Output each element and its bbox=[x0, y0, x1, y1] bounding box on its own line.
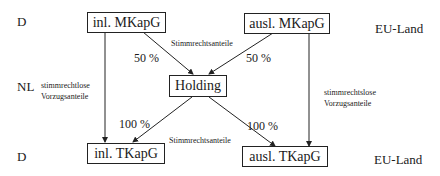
holding-structure-diagram: D EU-Land NL D EU-Land inl. MKapG ausl. … bbox=[0, 0, 440, 176]
node-label: Holding bbox=[175, 78, 221, 94]
node-inl-tkapg: inl. TKapG bbox=[87, 143, 165, 164]
node-label: inl. MKapG bbox=[93, 15, 161, 31]
node-inl-mkapg: inl. MKapG bbox=[87, 12, 166, 33]
country-label-top-right: EU-Land bbox=[375, 22, 423, 35]
country-label-bottom-left: D bbox=[17, 150, 26, 163]
annotation-line: Vorzugsanteile bbox=[41, 91, 90, 102]
node-ausl-mkapg: ausl. MKapG bbox=[244, 13, 330, 34]
annotation-nonvoting-left: stimmrechtlose Vorzugsanteile bbox=[41, 80, 90, 102]
pct-holding-ausl-tkapg: 100 % bbox=[247, 120, 278, 132]
node-label: inl. TKapG bbox=[94, 146, 158, 162]
annotation-voting-shares-top: Stimmrechtsanteile bbox=[171, 38, 233, 49]
pct-inl-mkapg-holding: 50 % bbox=[134, 52, 159, 64]
annotation-line: stimmrechtslose bbox=[324, 87, 376, 98]
annotation-nonvoting-right: stimmrechtslose Vorzugsanteile bbox=[324, 87, 376, 109]
node-label: ausl. TKapG bbox=[249, 149, 320, 165]
country-label-middle-left: NL bbox=[17, 80, 34, 93]
node-label: ausl. MKapG bbox=[249, 16, 324, 32]
pct-ausl-mkapg-holding: 50 % bbox=[246, 52, 271, 64]
pct-holding-inl-tkapg: 100 % bbox=[119, 118, 150, 130]
node-holding: Holding bbox=[169, 75, 227, 97]
annotation-line: stimmrechtlose bbox=[41, 80, 90, 91]
node-ausl-tkapg: ausl. TKapG bbox=[242, 146, 328, 167]
country-label-top-left: D bbox=[17, 15, 26, 28]
country-label-bottom-right: EU-Land bbox=[374, 153, 422, 166]
annotation-voting-shares-bottom: Stimmrechtsanteile bbox=[169, 135, 231, 146]
annotation-line: Vorzugsanteile bbox=[324, 98, 376, 109]
